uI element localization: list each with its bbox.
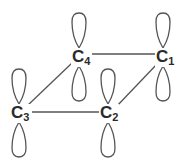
element-symbol: C [72, 47, 84, 66]
bond-c1-c2 [116, 63, 158, 107]
atom-label-c3: C3 [10, 104, 30, 123]
element-symbol: C [156, 47, 168, 66]
atom-index: 4 [84, 55, 90, 67]
p-orbital-c3-bottom-lobe [12, 122, 26, 157]
orbital-diagram-svg [0, 0, 186, 166]
atom-label-c1: C1 [155, 48, 175, 67]
atom-index: 1 [168, 55, 174, 67]
atom-index: 3 [23, 111, 29, 123]
atom-label-c2: C2 [99, 104, 119, 123]
element-symbol: C [100, 103, 112, 122]
p-orbital-c2-top-lobe [101, 69, 115, 104]
atom-label-c4: C4 [71, 48, 91, 67]
p-orbital-c4-bottom-lobe [72, 66, 86, 101]
p-orbital-c3-top-lobe [12, 69, 26, 104]
p-orbital-c1-top-lobe [156, 13, 170, 48]
p-orbital-c1-bottom-lobe [156, 66, 170, 101]
atom-index: 2 [112, 111, 118, 123]
element-symbol: C [11, 103, 23, 122]
bond-c3-c4 [27, 63, 72, 106]
cyclobutadiene-diagram: C4 C1 C3 C2 [0, 0, 186, 166]
p-orbital-c4-top-lobe [72, 13, 86, 48]
p-orbital-c2-bottom-lobe [101, 122, 115, 157]
